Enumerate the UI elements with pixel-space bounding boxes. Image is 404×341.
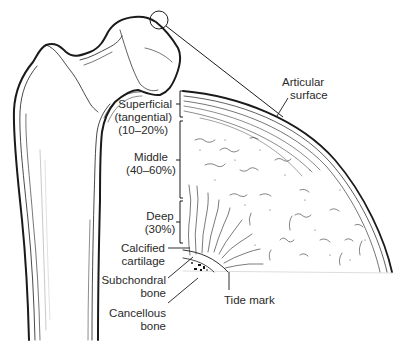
label-superficial-zone: Superficial (tangential) (10–20%) [114,98,172,137]
label-calcified-cartilage: Calcified cartilage [121,242,165,268]
label-deep-zone: Deep (30%) [142,210,178,236]
diagram-drawing [0,0,404,341]
label-cancellous-bone: Cancellous bone [109,307,166,333]
label-articular-surface: Articular surface [282,76,328,102]
label-subchondral-bone: Subchondral bone [101,274,166,300]
femur-cartilage-diagram: Articular surface Superficial (tangentia… [0,0,404,341]
label-tide-mark: Tide mark [224,294,275,307]
label-middle-zone: Middle (40–60%) [124,151,178,177]
cartilage-section [183,91,392,273]
